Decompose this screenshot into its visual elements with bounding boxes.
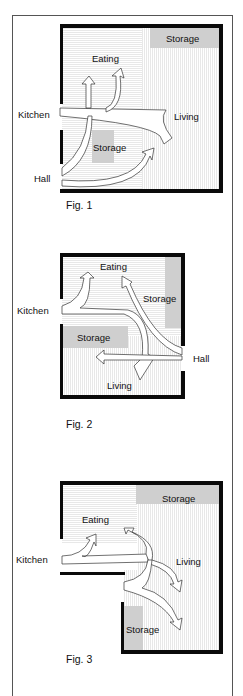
label-living: Living bbox=[107, 380, 132, 391]
label-hall: Hall bbox=[193, 353, 209, 364]
wall-left-middle bbox=[60, 130, 63, 164]
figure-2: Eating Storage Kitchen Storage Hall Livi… bbox=[17, 253, 209, 430]
wall-bottom bbox=[60, 395, 185, 399]
label-kitchen: Kitchen bbox=[18, 109, 50, 120]
label-eating: Eating bbox=[92, 53, 119, 64]
figure-caption: Fig. 3 bbox=[66, 653, 92, 665]
wall-top bbox=[60, 24, 223, 28]
label-living: Living bbox=[176, 556, 201, 567]
label-hall: Hall bbox=[34, 173, 50, 184]
label-storage-top: Storage bbox=[166, 33, 199, 44]
figure-3: Storage Eating Kitchen Living Storage Fi… bbox=[16, 481, 223, 665]
wall-left bbox=[60, 481, 63, 539]
wall-bottom bbox=[121, 650, 223, 654]
wall-right bbox=[219, 481, 223, 654]
figure-1: Storage Eating Kitchen Living Storage Ha… bbox=[18, 24, 223, 211]
wall-top bbox=[60, 253, 185, 257]
label-storage-top: Storage bbox=[162, 493, 195, 504]
label-eating: Eating bbox=[100, 261, 127, 272]
label-kitchen: Kitchen bbox=[17, 305, 49, 316]
label-storage-left: Storage bbox=[77, 332, 110, 343]
floor-zone-right bbox=[142, 27, 220, 190]
wall-top bbox=[60, 481, 223, 485]
wall-right-upper bbox=[181, 253, 185, 346]
wall-bottom bbox=[60, 189, 223, 193]
wall-right bbox=[219, 24, 223, 193]
label-storage-center: Storage bbox=[93, 142, 126, 153]
wall-inner-vertical bbox=[121, 602, 124, 654]
wall-left-lower bbox=[60, 324, 63, 399]
label-eating: Eating bbox=[82, 514, 109, 525]
label-storage-right: Storage bbox=[143, 293, 176, 304]
wall-left-upper bbox=[60, 24, 63, 104]
wall-left-upper bbox=[60, 253, 63, 299]
wall-kitchen-lower bbox=[60, 572, 125, 575]
figure-caption: Fig. 1 bbox=[66, 199, 92, 211]
storage-block-right bbox=[165, 256, 181, 328]
label-kitchen: Kitchen bbox=[16, 554, 48, 565]
label-storage-bottom: Storage bbox=[126, 624, 159, 635]
figure-caption: Fig. 2 bbox=[66, 418, 92, 430]
wall-right-lower bbox=[181, 371, 185, 399]
label-living: Living bbox=[174, 111, 199, 122]
